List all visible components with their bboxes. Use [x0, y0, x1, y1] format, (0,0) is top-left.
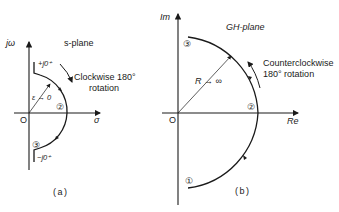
epsilon-label: ε → 0	[32, 93, 52, 102]
point-3-b: ③	[183, 39, 191, 49]
s-plane-label: s-plane	[64, 38, 94, 48]
contour-direction-arrow	[243, 155, 247, 160]
nyquist-mapping-diagram: jω s-plane +j0⁺ Clockwise 180° rotation …	[0, 0, 339, 212]
sigma-axis-label: σ	[94, 115, 100, 125]
plus-j0-label: +j0⁺	[38, 59, 53, 68]
point-1-b: ①	[185, 176, 193, 186]
gh-plane-label: GH-plane	[226, 22, 265, 32]
origin-label-a: O	[20, 115, 27, 125]
minus-j0-label: −j0⁺	[37, 153, 52, 162]
caption-b: (b)	[235, 186, 251, 196]
im-axis-label: Im	[160, 12, 171, 22]
rotation-note-line1-b: Counterclockwise	[263, 58, 334, 68]
counterclockwise-rotation-arrow	[248, 62, 260, 88]
rotation-note-line1: Clockwise 180°	[74, 72, 136, 82]
clockwise-rotation-arrow	[60, 64, 72, 82]
panel-a-s-plane: jω s-plane +j0⁺ Clockwise 180° rotation …	[5, 38, 136, 197]
point-2-b: ②	[247, 102, 255, 112]
origin-label-b: O	[169, 115, 176, 125]
point-3-a: ③	[32, 140, 40, 150]
radius-label: R → ∞	[195, 76, 222, 86]
rotation-note-line2: rotation	[89, 83, 119, 93]
panel-b-gh-plane: Im GH-plane ③ Counterclockwise 180° rota…	[160, 12, 334, 205]
jw-axis-label: jω	[5, 38, 15, 48]
point-2-a: ②	[56, 102, 64, 112]
rotation-note-line2-b: 180° rotation	[263, 69, 314, 79]
re-axis-label: Re	[287, 116, 299, 126]
caption-a: (a)	[53, 187, 69, 197]
